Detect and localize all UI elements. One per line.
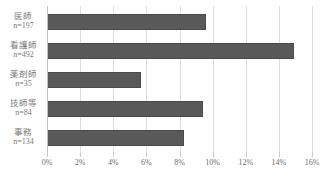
x-tick-label: 8% bbox=[165, 158, 195, 167]
category-count: n=492 bbox=[2, 51, 45, 59]
x-tick bbox=[279, 152, 280, 157]
category-label: 薬剤師n=35 bbox=[2, 70, 45, 88]
x-tick bbox=[312, 152, 313, 157]
bar-chart: 0%2%4%6%8%10%12%14%16% 医師n=197看護師n=492薬剤… bbox=[0, 0, 328, 184]
x-tick bbox=[180, 152, 181, 157]
x-tick bbox=[47, 152, 48, 157]
x-tick-label: 0% bbox=[32, 158, 62, 167]
x-tick-label: 14% bbox=[264, 158, 294, 167]
bar-row bbox=[47, 14, 312, 30]
gridline bbox=[312, 6, 313, 152]
category-count: n=197 bbox=[2, 22, 45, 30]
x-tick-label: 2% bbox=[65, 158, 95, 167]
bar bbox=[47, 43, 294, 59]
category-label: 医師n=197 bbox=[2, 12, 45, 30]
x-tick bbox=[213, 152, 214, 157]
plot-area bbox=[47, 6, 312, 152]
x-tick bbox=[113, 152, 114, 157]
category-count: n=84 bbox=[2, 109, 45, 117]
x-tick bbox=[80, 152, 81, 157]
bar-row bbox=[47, 101, 312, 117]
bar bbox=[47, 72, 141, 88]
category-name: 薬剤師 bbox=[2, 70, 45, 79]
bar bbox=[47, 14, 206, 30]
x-tick bbox=[146, 152, 147, 157]
x-tick-label: 12% bbox=[231, 158, 261, 167]
category-label: 技師等n=84 bbox=[2, 99, 45, 117]
x-tick-label: 16% bbox=[297, 158, 327, 167]
category-count: n=134 bbox=[2, 138, 45, 146]
bar-row bbox=[47, 72, 312, 88]
category-name: 技師等 bbox=[2, 99, 45, 108]
category-count: n=35 bbox=[2, 80, 45, 88]
category-name: 看護師 bbox=[2, 41, 45, 50]
category-name: 事務 bbox=[2, 128, 45, 137]
y-axis-line bbox=[47, 6, 48, 152]
bar bbox=[47, 130, 184, 146]
bar-row bbox=[47, 43, 312, 59]
x-tick-label: 6% bbox=[131, 158, 161, 167]
category-name: 医師 bbox=[2, 12, 45, 21]
x-tick-label: 4% bbox=[98, 158, 128, 167]
bar bbox=[47, 101, 203, 117]
bar-row bbox=[47, 130, 312, 146]
category-label: 事務n=134 bbox=[2, 128, 45, 146]
x-tick bbox=[246, 152, 247, 157]
category-label: 看護師n=492 bbox=[2, 41, 45, 59]
x-tick-label: 10% bbox=[198, 158, 228, 167]
